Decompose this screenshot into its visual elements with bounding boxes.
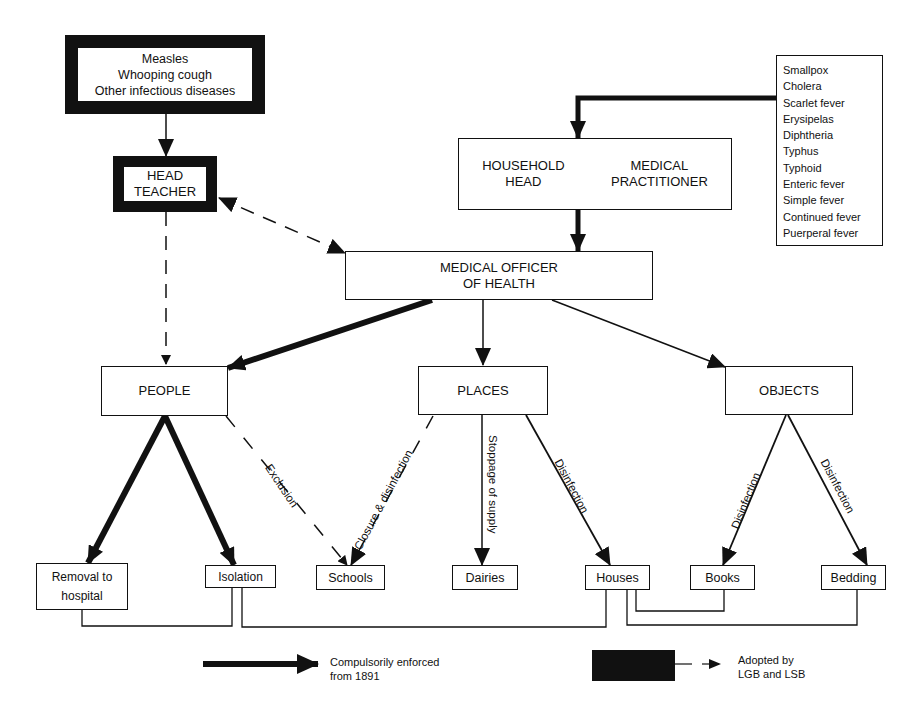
diseases-right-list: Smallpox Cholera Scarlet fever Erysipela…	[776, 55, 883, 246]
disease-item: Cholera	[783, 78, 876, 94]
connector-houses-books	[636, 590, 724, 611]
disease-item: Continued fever	[783, 209, 876, 225]
household-line2: HEAD	[482, 174, 564, 190]
objects-box: OBJECTS	[725, 366, 853, 415]
disease-item: Typhus	[783, 143, 876, 159]
diseases-left-box: Measles Whooping cough Other infectious …	[65, 35, 265, 114]
arrow-objects-to-bedding	[788, 415, 867, 565]
legend-adopted-text: Adopted by LGB and LSB	[738, 653, 805, 681]
household-head-label: HOUSEHOLD HEAD	[482, 158, 564, 190]
people-label: PEOPLE	[138, 383, 190, 399]
bedding-label: Bedding	[831, 570, 877, 586]
practitioner-line1: MEDICAL	[611, 158, 708, 174]
legend-compulsory-line1: Compulsorily enforced	[330, 655, 439, 669]
head-teacher-line2: TEACHER	[134, 184, 196, 200]
household-line1: HOUSEHOLD	[482, 158, 564, 174]
legend-adopted-line2: LGB and LSB	[738, 667, 805, 681]
disease-item: Scarlet fever	[783, 95, 876, 111]
arrow-people-to-isolation	[165, 416, 234, 565]
legend-compulsory-line2: from 1891	[330, 669, 439, 683]
books-label: Books	[705, 570, 740, 586]
isolation-box: Isolation	[205, 565, 276, 588]
legend-compulsory-text: Compulsorily enforced from 1891	[330, 655, 439, 683]
edge-label-stoppage-of-supply: Stoppage of supply	[487, 435, 499, 533]
legend-black-box	[592, 650, 675, 681]
head-teacher-line1: HEAD	[147, 168, 183, 184]
moh-line2: OF HEALTH	[463, 276, 535, 292]
connector-houses-bedding	[627, 590, 857, 625]
isolation-label: Isolation	[218, 569, 263, 585]
schools-box: Schools	[316, 565, 385, 590]
disease-item: Diphtheria	[783, 127, 876, 143]
disease-item: Smallpox	[783, 62, 876, 78]
medical-practitioner-label: MEDICAL PRACTITIONER	[611, 158, 708, 190]
dairies-box: Dairies	[452, 565, 518, 590]
arrow-people-to-removal	[88, 416, 165, 563]
disease-other: Other infectious diseases	[95, 83, 235, 99]
arrow-diseases-to-household	[578, 98, 776, 138]
household-practitioner-box: HOUSEHOLD HEAD MEDICAL PRACTITIONER	[458, 138, 732, 210]
head-teacher-box: HEAD TEACHER	[113, 156, 217, 212]
disease-item: Typhoid	[783, 160, 876, 176]
houses-label: Houses	[596, 570, 638, 586]
removal-line2: hospital	[61, 587, 102, 606]
removal-to-hospital-box: Removal to hospital	[36, 563, 128, 610]
arrow-moh-to-people	[228, 300, 432, 368]
dairies-label: Dairies	[466, 570, 505, 586]
connector-isolation-houses	[242, 588, 606, 627]
disease-item: Simple fever	[783, 192, 876, 208]
disease-measles: Measles	[142, 51, 189, 67]
arrow-moh-to-objects	[552, 300, 725, 367]
books-box: Books	[690, 565, 755, 590]
disease-item: Enteric fever	[783, 176, 876, 192]
bedding-box: Bedding	[821, 565, 886, 590]
houses-box: Houses	[585, 565, 650, 590]
dashed-headteacher-moh	[219, 198, 345, 253]
practitioner-line2: PRACTITIONER	[611, 174, 708, 190]
objects-label: OBJECTS	[759, 383, 819, 399]
removal-line1: Removal to	[52, 568, 113, 587]
legend-adopted-line1: Adopted by	[738, 653, 805, 667]
places-box: PLACES	[418, 366, 548, 415]
places-label: PLACES	[457, 383, 508, 399]
legend-dash-arrowhead	[709, 659, 721, 669]
legend-thick-arrowhead	[297, 654, 319, 674]
disease-item: Erysipelas	[783, 111, 876, 127]
people-box: PEOPLE	[101, 366, 228, 416]
schools-label: Schools	[328, 570, 372, 586]
disease-whooping-cough: Whooping cough	[118, 67, 212, 83]
medical-officer-of-health-box: MEDICAL OFFICER OF HEALTH	[345, 251, 653, 300]
moh-line1: MEDICAL OFFICER	[440, 260, 558, 276]
disease-item: Puerperal fever	[783, 225, 876, 241]
